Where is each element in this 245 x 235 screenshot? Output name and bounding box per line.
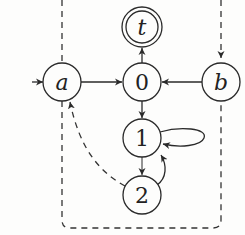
edge-2-1 (157, 155, 165, 185)
svg-text:1: 1 (135, 126, 149, 151)
node-t-accepting: t (122, 7, 162, 47)
edge-2-a-dashed (70, 102, 125, 186)
state-diagram: a 0 b t 1 2 (0, 0, 245, 235)
node-b: b (202, 63, 240, 101)
edge-1-self-loop (160, 129, 204, 146)
svg-text:a: a (55, 70, 68, 95)
svg-text:b: b (214, 70, 228, 95)
svg-text:2: 2 (135, 183, 149, 208)
node-a: a (43, 63, 81, 101)
svg-text:0: 0 (135, 70, 149, 95)
node-2: 2 (123, 176, 161, 214)
svg-text:t: t (138, 15, 147, 40)
node-0: 0 (123, 63, 161, 101)
node-1: 1 (123, 119, 161, 157)
